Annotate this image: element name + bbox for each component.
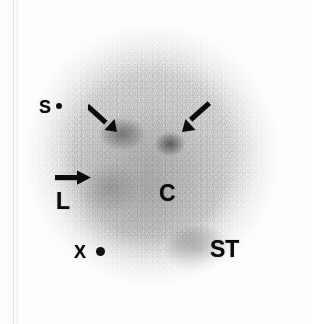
annotation-arrow-down-left-icon — [178, 101, 212, 135]
annotation-arrow-down-right-icon — [88, 101, 122, 135]
annotation-arrow-right-icon — [55, 168, 93, 188]
label-c: C — [159, 182, 176, 205]
label-l: L — [56, 190, 70, 213]
label-s: S — [39, 98, 51, 116]
scan-speckle-noise-2 — [22, 22, 282, 288]
scintigraphy-figure: S L C X ST — [0, 0, 312, 324]
label-x: X — [74, 243, 86, 261]
page-edge-line — [13, 0, 14, 324]
fiducial-dot-marker-x — [96, 247, 105, 256]
fiducial-dot-marker-s — [56, 103, 62, 109]
page-edge-artifact — [16, 0, 18, 324]
label-st: ST — [210, 238, 239, 261]
